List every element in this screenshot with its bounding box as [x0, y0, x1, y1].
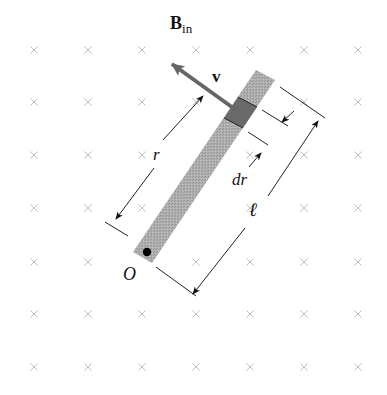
into-page-x-icon [30, 204, 37, 211]
into-page-x-icon [300, 363, 307, 370]
into-page-x-icon [354, 310, 361, 317]
velocity-arrow-icon [172, 64, 236, 110]
into-page-x-icon [84, 258, 91, 265]
into-page-x-icon [246, 258, 253, 265]
radius-label: r [153, 145, 160, 164]
into-page-x-icon [300, 258, 307, 265]
into-page-x-icon [300, 204, 307, 211]
into-page-x-icon [354, 46, 361, 53]
into-page-x-icon [354, 151, 361, 158]
into-page-x-icon [192, 258, 199, 265]
into-page-x-icon [300, 310, 307, 317]
rotating-rod-diagram: Bin v r dr ℓ O [0, 0, 387, 395]
into-page-x-icon [30, 46, 37, 53]
into-page-x-icon [30, 151, 37, 158]
into-page-x-icon [246, 310, 253, 317]
into-page-x-icon [192, 46, 199, 53]
into-page-x-icon [138, 98, 145, 105]
into-page-x-icon [84, 204, 91, 211]
into-page-x-icon [30, 310, 37, 317]
into-page-x-icon [192, 310, 199, 317]
into-page-x-icon [354, 98, 361, 105]
pivot-label: O [123, 264, 136, 284]
into-page-x-icon [246, 363, 253, 370]
velocity-label: v [212, 67, 221, 86]
into-page-x-icon [138, 363, 145, 370]
field-label: Bin [170, 13, 193, 36]
into-page-x-icon [300, 151, 307, 158]
into-page-x-icon [84, 46, 91, 53]
into-page-x-icon [84, 98, 91, 105]
into-page-x-icon [138, 46, 145, 53]
into-page-x-icon [354, 204, 361, 211]
element-label: dr [232, 170, 248, 189]
dr-dimension [248, 110, 294, 167]
into-page-x-icon [246, 46, 253, 53]
length-label: ℓ [249, 199, 257, 220]
into-page-x-icon [84, 310, 91, 317]
into-page-x-icon [138, 310, 145, 317]
pivot-point [143, 248, 151, 256]
into-page-x-icon [30, 363, 37, 370]
into-page-x-icon [138, 151, 145, 158]
into-page-x-icon [192, 363, 199, 370]
into-page-x-icon [30, 258, 37, 265]
into-page-x-icon [246, 151, 253, 158]
rod-body [133, 70, 275, 263]
into-page-x-icon [138, 204, 145, 211]
into-page-x-icon [84, 363, 91, 370]
into-page-x-icon [300, 46, 307, 53]
into-page-x-icon [354, 258, 361, 265]
radius-dimension [105, 96, 203, 236]
magnetic-field-grid [30, 46, 361, 370]
into-page-x-icon [84, 151, 91, 158]
into-page-x-icon [30, 98, 37, 105]
into-page-x-icon [192, 98, 199, 105]
into-page-x-icon [354, 363, 361, 370]
rod [133, 70, 275, 263]
